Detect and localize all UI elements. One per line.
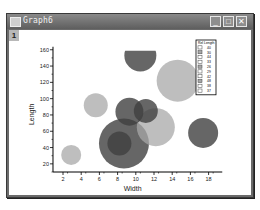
bubbles [61,39,218,168]
legend-entry: 37 [207,89,211,93]
y-tick-label: 40 [43,145,49,151]
bubble [124,39,156,71]
bubble [61,145,81,165]
x-tick-label: 4 [80,176,83,182]
graph-window-icon [10,17,21,27]
x-tick-label: 14 [169,176,175,182]
legend-swatch [198,60,202,63]
x-axis-label: Width [124,185,142,192]
legend-swatch [198,79,202,82]
bubble [134,99,158,123]
legend-entry: 40 [207,46,211,50]
legend-entry: 26 [207,65,211,69]
x-tick-label: 18 [206,176,212,182]
close-button[interactable]: ✕ [236,16,247,27]
bubble [84,93,108,117]
maximize-button[interactable]: □ [223,16,234,27]
legend-entry: 38 [207,84,211,88]
legend-entry: 42 [207,75,211,79]
x-tick-label: 2 [61,176,64,182]
x-tick-label: 16 [187,176,193,182]
title-bar[interactable]: Graph6 _ □ ✕ [7,14,253,29]
legend-entry: 30 [207,51,211,55]
y-tick-label: 80 [43,112,49,118]
graph-page: 1 2468101214161820406080100120140160Widt… [9,30,251,195]
bubble [157,60,199,102]
legend: Rel Length40304433262942483837 [196,40,216,95]
legend-entry: 33 [207,60,211,64]
y-axis-label: Length [28,104,36,126]
legend-swatch [198,51,202,54]
legend-swatch [198,75,202,78]
legend-entry: 29 [207,70,211,74]
x-tick-label: 6 [98,176,101,182]
y-tick-label: 120 [40,79,49,85]
legend-swatch [198,46,202,49]
y-tick-label: 20 [43,161,49,167]
bubble [188,118,218,148]
legend-swatch [198,89,202,92]
y-tick-label: 100 [40,96,49,102]
y-tick-label: 160 [40,47,49,53]
graph-window: Graph6 _ □ ✕ 1 2468101214161820406080100… [6,13,254,198]
legend-entry: 48 [207,79,211,83]
minimize-button[interactable]: _ [210,16,221,27]
window-title: Graph6 [23,16,53,25]
legend-swatch [198,84,202,87]
legend-title: Rel Length [198,41,215,45]
legend-swatch [198,70,202,73]
legend-swatch [198,65,202,68]
y-tick-label: 60 [43,128,49,134]
legend-entry: 44 [207,55,211,59]
x-tick-label: 8 [116,176,119,182]
x-tick-label: 10 [133,176,139,182]
legend-swatch [198,55,202,58]
y-tick-label: 140 [40,63,49,69]
bubble [107,131,131,155]
x-tick-label: 12 [151,176,157,182]
bubble-chart: 2468101214161820406080100120140160WidthL… [9,30,251,194]
